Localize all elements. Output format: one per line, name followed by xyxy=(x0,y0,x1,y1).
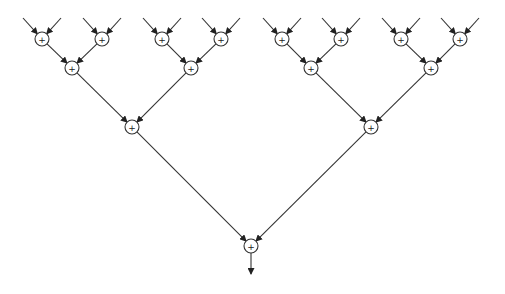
input-arrow xyxy=(23,18,37,34)
adder-node: + xyxy=(244,239,258,253)
input-arrow xyxy=(167,18,181,34)
input-arrow xyxy=(382,18,396,34)
plus-label: + xyxy=(397,35,405,45)
edge-arrow xyxy=(77,44,97,63)
edge-arrow xyxy=(316,44,336,63)
edge-arrow xyxy=(316,73,366,122)
adder-node: + xyxy=(453,32,467,46)
adder-node: + xyxy=(95,32,109,46)
edges-layer xyxy=(23,18,479,274)
input-arrow xyxy=(226,18,240,34)
adder-node: + xyxy=(184,61,198,75)
plus-label: + xyxy=(247,242,255,252)
edge-arrow xyxy=(137,132,246,241)
input-arrow xyxy=(83,18,97,34)
plus-label: + xyxy=(278,35,286,45)
input-arrow xyxy=(287,18,301,34)
plus-label: + xyxy=(456,35,464,45)
plus-label: + xyxy=(68,64,76,74)
input-arrow xyxy=(202,18,216,34)
plus-label: + xyxy=(128,123,136,133)
edge-arrow xyxy=(287,44,306,63)
plus-label: + xyxy=(307,64,315,74)
plus-label: + xyxy=(158,35,166,45)
input-arrow xyxy=(263,18,277,34)
input-arrow xyxy=(322,18,336,34)
plus-label: + xyxy=(427,64,435,74)
plus-label: + xyxy=(217,35,225,45)
edge-arrow xyxy=(137,73,186,122)
input-arrow xyxy=(47,18,61,34)
input-arrow xyxy=(441,18,455,34)
adder-node: + xyxy=(125,120,139,134)
input-arrow xyxy=(107,18,121,34)
edge-arrow xyxy=(406,44,426,63)
edge-arrow xyxy=(256,132,366,241)
input-arrow xyxy=(406,18,420,34)
adder-node: + xyxy=(424,61,438,75)
plus-label: + xyxy=(98,35,106,45)
edge-arrow xyxy=(77,73,127,122)
edge-arrow xyxy=(47,44,67,63)
adder-tree-diagram: +++++++++++++++ xyxy=(0,0,505,294)
adder-node: + xyxy=(304,61,318,75)
input-arrow xyxy=(346,18,360,34)
nodes-layer: +++++++++++++++ xyxy=(35,32,467,253)
plus-label: + xyxy=(367,123,375,133)
input-arrow xyxy=(143,18,157,34)
adder-node: + xyxy=(334,32,348,46)
adder-node: + xyxy=(155,32,169,46)
adder-node: + xyxy=(214,32,228,46)
adder-node: + xyxy=(35,32,49,46)
edge-arrow xyxy=(196,44,216,63)
plus-label: + xyxy=(38,35,46,45)
adder-node: + xyxy=(65,61,79,75)
edge-arrow xyxy=(376,73,426,122)
edge-arrow xyxy=(167,44,186,63)
adder-node: + xyxy=(275,32,289,46)
input-arrow xyxy=(465,18,479,34)
edge-arrow xyxy=(436,44,455,63)
adder-node: + xyxy=(364,120,378,134)
plus-label: + xyxy=(187,64,195,74)
plus-label: + xyxy=(337,35,345,45)
adder-node: + xyxy=(394,32,408,46)
